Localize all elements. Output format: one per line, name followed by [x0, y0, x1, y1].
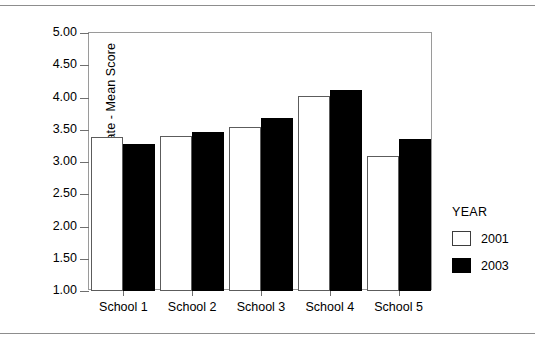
legend-swatch-2003 — [452, 258, 471, 273]
bar-2001-school-5 — [367, 156, 399, 291]
bar-2003-school-4 — [330, 90, 362, 291]
top-horizontal-rule — [0, 5, 535, 6]
bar-2001-school-4 — [298, 96, 330, 291]
legend: YEAR 20012003 — [452, 205, 532, 285]
y-tick-label: 5.00 — [35, 25, 77, 39]
y-tick-label: 1.50 — [35, 251, 77, 265]
y-tick-mark — [80, 33, 89, 34]
bar-2001-school-3 — [229, 127, 261, 291]
legend-label-2001: 2001 — [481, 232, 509, 246]
legend-items: 20012003 — [452, 231, 532, 273]
y-tick-label: 4.50 — [35, 57, 77, 71]
y-tick-label: 3.00 — [35, 154, 77, 168]
y-tick-label: 3.50 — [35, 122, 77, 136]
bar-2003-school-2 — [192, 132, 224, 291]
bottom-horizontal-rule — [0, 333, 535, 334]
y-tick-mark — [80, 130, 89, 131]
y-tick-label: 4.00 — [35, 90, 77, 104]
y-tick-mark — [80, 194, 89, 195]
y-tick-label: 2.50 — [35, 186, 77, 200]
y-tick-mark — [80, 291, 89, 292]
legend-label-2003: 2003 — [481, 259, 509, 273]
bar-2003-school-1 — [123, 144, 155, 291]
y-tick-mark — [80, 259, 89, 260]
plot-area: General School Climate - Mean Score 5.00… — [88, 32, 432, 290]
legend-swatch-2001 — [452, 231, 471, 246]
legend-title: YEAR — [452, 205, 532, 219]
y-tick-mark — [80, 65, 89, 66]
legend-item-2003: 2003 — [452, 258, 532, 273]
y-tick-label: 2.00 — [35, 219, 77, 233]
bar-2003-school-3 — [261, 118, 293, 291]
y-tick-mark — [80, 98, 89, 99]
x-tick-label: School 3 — [237, 300, 286, 314]
bar-2001-school-2 — [160, 136, 192, 291]
x-tick-label: School 4 — [305, 300, 354, 314]
y-tick-mark — [80, 162, 89, 163]
y-tick-mark — [80, 227, 89, 228]
bar-2003-school-5 — [399, 139, 431, 291]
x-tick-label: School 2 — [168, 300, 217, 314]
bar-2001-school-1 — [91, 137, 123, 291]
x-tick-label: School 5 — [374, 300, 423, 314]
x-tick-label: School 1 — [99, 300, 148, 314]
bar-chart-figure: General School Climate - Mean Score 5.00… — [0, 0, 535, 342]
y-tick-label: 1.00 — [35, 283, 77, 297]
legend-item-2001: 2001 — [452, 231, 532, 246]
